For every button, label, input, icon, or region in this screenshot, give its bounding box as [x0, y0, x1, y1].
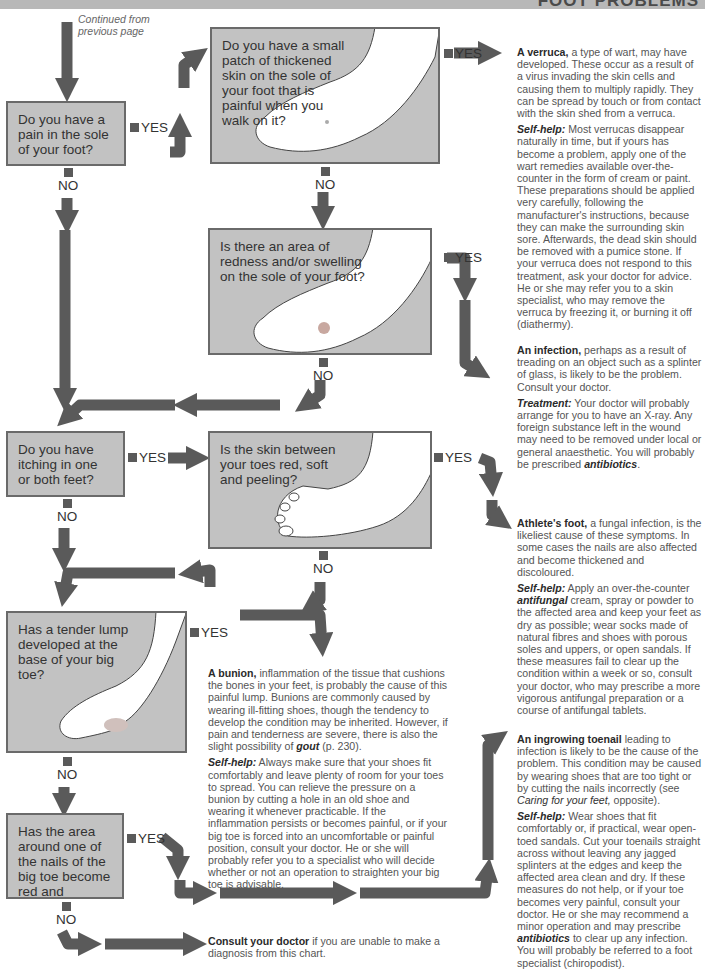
question-text: Do you have itching in one or both feet?	[18, 442, 113, 487]
yes-label-q6: YES	[190, 625, 228, 640]
continued-line-2: previous page	[78, 25, 150, 37]
no-text: NO	[315, 177, 335, 192]
no-text: NO	[58, 178, 78, 193]
square-marker-icon	[128, 453, 137, 462]
self-help-emphasis: antibiotics	[517, 932, 570, 944]
square-marker-icon	[444, 49, 453, 58]
yes-text: YES	[201, 625, 228, 640]
question-text: Do you have a pain in the sole of your f…	[18, 112, 114, 157]
outcome-infection: An infection, perhaps as a result of tre…	[517, 344, 702, 474]
question-box-redness-swelling: Is there an area of redness and/or swell…	[208, 228, 432, 355]
square-marker-icon	[127, 834, 136, 843]
square-marker-icon	[63, 757, 72, 766]
yes-text: YES	[138, 831, 165, 846]
self-help-text: Most verrucas disappear naturally in tim…	[517, 123, 697, 330]
yes-label-q5: YES	[434, 450, 472, 465]
outcome-emphasis: gout	[296, 740, 319, 752]
outcome-title: A bunion,	[208, 667, 256, 679]
square-marker-icon	[190, 628, 199, 637]
square-marker-icon	[434, 453, 443, 462]
no-text: NO	[313, 368, 333, 383]
self-help-label: Self-help:	[517, 123, 565, 135]
question-text: Do you have a small patch of thickened s…	[222, 38, 352, 128]
outcome-consult-doctor: Consult your doctor if you are unable to…	[208, 935, 448, 963]
treatment-end: .	[637, 458, 640, 470]
no-label-q5: NO	[313, 551, 333, 576]
self-help-text: Always make sure that your shoes fit com…	[208, 756, 447, 890]
self-help-label: Self-help:	[208, 756, 256, 768]
yes-label-q7: YES	[127, 831, 165, 846]
outcome-title: Consult your doctor	[208, 935, 309, 947]
no-label-q3: NO	[313, 358, 333, 383]
yes-label-q4: YES	[128, 450, 166, 465]
self-help-pre: Apply an over-the-counter	[565, 582, 689, 594]
continued-note: Continued from previous page	[78, 13, 150, 37]
yes-text: YES	[139, 450, 166, 465]
outcome-title: An ingrowing toenail	[517, 733, 622, 745]
square-marker-icon	[444, 253, 453, 262]
square-marker-icon	[319, 551, 328, 560]
outcome-athletes-foot: Athlete's foot, a fungal infection, is t…	[517, 517, 702, 720]
outcome-body-end: opposite).	[611, 794, 660, 806]
self-help-text: cream, spray or powder to the affected a…	[517, 594, 701, 716]
question-box-nail-red: Has the area around one of the nails of …	[6, 813, 124, 899]
yes-text: YES	[455, 250, 482, 265]
question-box-tender-lump: Has a tender lump developed at the base …	[6, 611, 187, 753]
question-text: Is there an area of redness and/or swell…	[220, 239, 370, 284]
no-label-q4: NO	[57, 499, 77, 524]
no-label-q7: NO	[56, 902, 76, 927]
question-text: Has the area around one of the nails of …	[18, 824, 112, 899]
treatment-label: Treatment:	[517, 397, 572, 409]
question-text: Is the skin between your toes red, soft …	[220, 442, 350, 487]
self-help-label: Self-help:	[517, 810, 565, 822]
outcome-title: An infection,	[517, 344, 581, 356]
square-marker-icon	[62, 902, 71, 911]
square-marker-icon	[63, 499, 72, 508]
question-box-thickened-skin: Do you have a small patch of thickened s…	[210, 27, 440, 164]
yes-text: YES	[141, 120, 168, 135]
outcome-body-end: (p. 230).	[319, 740, 361, 752]
question-text: Has a tender lump developed at the base …	[18, 622, 138, 682]
question-box-skin-between-toes: Is the skin between your toes red, soft …	[208, 431, 432, 549]
no-label-q2: NO	[315, 167, 335, 192]
square-marker-icon	[130, 123, 139, 132]
self-help-emphasis: antifungal	[517, 594, 568, 606]
question-box-sole-pain: Do you have a pain in the sole of your f…	[6, 101, 126, 166]
yes-label-q1: YES	[130, 120, 168, 135]
yes-label-q2: YES	[444, 46, 482, 61]
no-text: NO	[313, 561, 333, 576]
no-text: NO	[57, 509, 77, 524]
question-box-itching: Do you have itching in one or both feet?	[6, 431, 125, 497]
outcome-ingrowing-toenail: An ingrowing toenail leading to infectio…	[517, 733, 702, 973]
no-text: NO	[57, 767, 77, 782]
outcome-title: Athlete's foot,	[517, 517, 587, 529]
outcome-reference: Caring for your feet,	[517, 794, 611, 806]
outcome-bunion: A bunion, inflammation of the tissue tha…	[208, 667, 448, 895]
outcome-verruca: A verruca, a type of wart, may have deve…	[517, 46, 702, 335]
treatment-emphasis: antibiotics	[584, 458, 637, 470]
outcome-title: A verruca,	[517, 46, 568, 58]
square-marker-icon	[321, 167, 330, 176]
yes-text: YES	[455, 46, 482, 61]
continued-line-1: Continued from	[78, 13, 150, 25]
no-text: NO	[56, 912, 76, 927]
yes-label-q3: YES	[444, 250, 482, 265]
square-marker-icon	[319, 358, 328, 367]
self-help-label: Self-help:	[517, 582, 565, 594]
square-marker-icon	[64, 168, 73, 177]
yes-text: YES	[445, 450, 472, 465]
no-label-q6: NO	[57, 757, 77, 782]
self-help-text: Wear shoes that fit comfortably or, if p…	[517, 810, 700, 932]
no-label-q1: NO	[58, 168, 78, 193]
